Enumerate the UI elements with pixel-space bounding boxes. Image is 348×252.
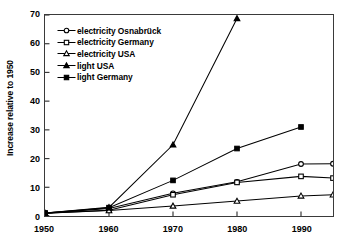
data-point-marker [171, 178, 176, 183]
legend-marker-open-triangle-icon [57, 48, 76, 59]
series-line [45, 176, 333, 213]
data-point-marker [170, 142, 176, 147]
data-point-marker [64, 51, 69, 56]
legend-item: light Germany [57, 71, 197, 83]
data-point-marker [64, 63, 69, 68]
data-point-marker [235, 180, 240, 185]
series-line [45, 127, 301, 213]
y-tick-label: 10 [30, 183, 40, 193]
data-point-marker [64, 29, 69, 34]
data-point-marker [170, 203, 176, 208]
legend-item: electricity Osnabrück [57, 25, 197, 37]
data-point-marker [64, 40, 68, 44]
chart-figure: Increase relative to 1950 01020304050607… [0, 0, 348, 252]
legend-item-label: electricity Germany [77, 37, 154, 47]
legend-item-label: light USA [77, 61, 114, 71]
legend-marker-open-circle-icon [57, 25, 76, 36]
legend-item: electricity USA [57, 48, 197, 60]
y-axis-tick-labels: 010203040506070 [16, 0, 42, 252]
data-point-marker [298, 193, 304, 198]
x-tick-label: 1980 [227, 224, 247, 234]
legend-item-label: electricity USA [77, 49, 135, 59]
y-tick-label: 40 [30, 96, 40, 106]
y-tick-label: 70 [30, 9, 40, 19]
legend-marker-open-square-icon [57, 37, 76, 48]
y-tick-label: 50 [30, 67, 40, 77]
data-point-marker [235, 146, 240, 151]
data-point-marker [299, 162, 304, 167]
legend-item: light USA [57, 60, 197, 72]
x-tick-label: 1990 [292, 224, 312, 234]
data-point-marker [331, 161, 333, 166]
series-line [45, 164, 333, 213]
x-tick-label: 1960 [98, 224, 118, 234]
chart-legend: electricity Osnabrückelectricity Germany… [57, 25, 197, 83]
data-point-marker [234, 198, 240, 203]
data-point-marker [45, 211, 47, 216]
x-tick-label: 1970 [163, 224, 183, 234]
data-point-marker [234, 16, 240, 21]
y-axis-title-text: Increase relative to 1950 [5, 60, 15, 156]
data-point-marker [331, 176, 333, 181]
legend-marker-filled-square-icon [57, 72, 76, 83]
data-point-marker [299, 174, 304, 179]
data-point-marker [299, 125, 304, 130]
y-tick-label: 20 [30, 154, 40, 164]
y-tick-label: 60 [30, 38, 40, 48]
data-point-marker [64, 75, 68, 79]
data-point-marker [171, 192, 176, 197]
legend-item-label: light Germany [77, 72, 133, 82]
legend-item-label: electricity Osnabrück [77, 26, 161, 36]
y-tick-label: 30 [30, 125, 40, 135]
legend-item: electricity Germany [57, 37, 197, 49]
legend-marker-filled-triangle-icon [57, 60, 76, 71]
y-tick-label: 0 [35, 212, 40, 222]
data-point-marker [107, 205, 112, 210]
